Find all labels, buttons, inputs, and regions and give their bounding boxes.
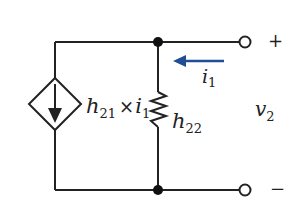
resistor-label: h22 bbox=[172, 109, 202, 136]
top-node bbox=[153, 37, 163, 47]
arrow-down-icon bbox=[48, 108, 62, 123]
dependent-source-label: h21×i1 bbox=[86, 94, 150, 121]
positive-terminal-label: + bbox=[268, 30, 283, 51]
bottom-node bbox=[153, 185, 163, 195]
voltage-label: v2 bbox=[255, 97, 275, 124]
circuit-diagram: i1 + − v2 h21×i1 h22 bbox=[0, 0, 290, 210]
resistor-icon bbox=[151, 92, 166, 127]
arrow-left-icon bbox=[173, 55, 186, 67]
dependent-current-source bbox=[29, 78, 81, 130]
positive-terminal bbox=[240, 37, 251, 48]
current-label: i1 bbox=[202, 65, 216, 90]
current-arrow bbox=[173, 55, 224, 67]
negative-terminal-label: − bbox=[270, 178, 285, 199]
negative-terminal bbox=[240, 185, 251, 196]
